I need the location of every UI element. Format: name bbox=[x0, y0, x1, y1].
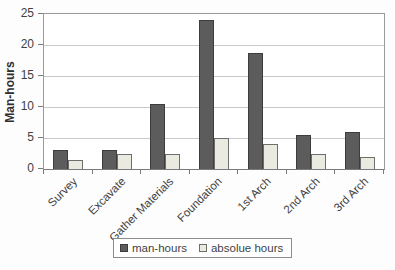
x-axis-label: 1st Arch bbox=[235, 175, 273, 213]
bar-man-hours bbox=[150, 104, 165, 169]
bar-absolue-hours bbox=[117, 154, 132, 170]
x-tick bbox=[92, 170, 93, 174]
legend-label: absolue hours bbox=[211, 242, 283, 254]
y-tick bbox=[38, 168, 43, 169]
legend-swatch bbox=[199, 244, 207, 252]
y-tick-label: 15 bbox=[4, 68, 34, 82]
y-tick-label: 25 bbox=[4, 6, 34, 20]
x-axis-label: 3rd Arch bbox=[331, 175, 370, 214]
bar-man-hours bbox=[296, 135, 311, 169]
x-tick bbox=[140, 170, 141, 174]
bar-man-hours bbox=[53, 150, 68, 169]
x-axis-label: Survey bbox=[45, 175, 79, 209]
legend-swatch bbox=[120, 244, 128, 252]
y-tick-label: 20 bbox=[4, 37, 34, 51]
x-axis-label: Excavate bbox=[85, 175, 127, 217]
y-tick-label: 10 bbox=[4, 99, 34, 113]
x-tick bbox=[43, 170, 44, 174]
bar-man-hours bbox=[345, 132, 360, 169]
x-tick bbox=[334, 170, 335, 174]
bar-absolue-hours bbox=[68, 160, 83, 169]
bar-man-hours bbox=[199, 20, 214, 169]
bar-group-survey bbox=[44, 14, 93, 169]
x-axis-label: Foundation bbox=[175, 175, 224, 224]
bar-absolue-hours bbox=[311, 154, 326, 170]
bar-absolue-hours bbox=[165, 154, 180, 170]
bar-absolue-hours bbox=[214, 138, 229, 169]
x-tick bbox=[237, 170, 238, 174]
bar-group-excavate bbox=[93, 14, 142, 169]
plot-area bbox=[43, 13, 385, 170]
bar-man-hours bbox=[102, 150, 117, 169]
x-tick bbox=[383, 170, 384, 174]
bar-group-1st-arch bbox=[238, 14, 287, 169]
bar-groups bbox=[44, 14, 384, 169]
bar-group-3rd-arch bbox=[335, 14, 384, 169]
bar-group-foundation bbox=[190, 14, 239, 169]
bar-absolue-hours bbox=[360, 157, 375, 169]
legend: man-hoursabsolue hours bbox=[113, 238, 292, 258]
y-tick-label: 0 bbox=[4, 161, 34, 175]
bar-group-gather-materials bbox=[141, 14, 190, 169]
y-tick bbox=[38, 75, 43, 76]
legend-label: man-hours bbox=[132, 242, 187, 254]
bar-absolue-hours bbox=[263, 144, 278, 169]
bar-man-hours bbox=[248, 53, 263, 169]
chart: Man-hours 0510152025 SurveyExcavateGathe… bbox=[0, 0, 395, 270]
x-axis-label: 2nd Arch bbox=[281, 175, 322, 216]
legend-item-absolue-hours: absolue hours bbox=[199, 242, 283, 254]
y-tick bbox=[38, 137, 43, 138]
x-tick bbox=[286, 170, 287, 174]
x-tick bbox=[189, 170, 190, 174]
y-tick-label: 5 bbox=[4, 130, 34, 144]
bar-group-2nd-arch bbox=[287, 14, 336, 169]
y-tick bbox=[38, 44, 43, 45]
y-tick bbox=[38, 13, 43, 14]
y-tick bbox=[38, 106, 43, 107]
legend-item-man-hours: man-hours bbox=[120, 242, 187, 254]
